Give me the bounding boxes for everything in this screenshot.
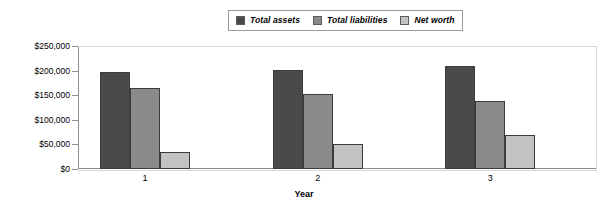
y-axis-tick-label: $50,000: [4, 140, 70, 149]
legend-label: Net worth: [414, 16, 454, 25]
legend-label: Total liabilities: [327, 16, 387, 25]
y-axis-tick-label: $200,000: [4, 67, 70, 76]
x-axis-category-label: 1: [115, 174, 175, 183]
plot-area-frame: [78, 46, 597, 171]
legend-swatch-icon: [236, 16, 245, 25]
legend-entry[interactable]: Total assets: [236, 16, 300, 25]
legend-swatch-icon: [400, 16, 409, 25]
y-axis-tick-label: $0: [4, 165, 70, 174]
legend-entry[interactable]: Net worth: [400, 16, 454, 25]
x-axis-category-label: 2: [288, 174, 348, 183]
legend-swatch-icon: [313, 16, 322, 25]
x-axis-title: Year: [0, 190, 608, 199]
y-axis-tick-label: $150,000: [4, 91, 70, 100]
chart-legend: Total assetsTotal liabilitiesNet worth: [228, 10, 463, 31]
y-axis-tick-label: $250,000: [4, 42, 70, 51]
legend-entry[interactable]: Total liabilities: [313, 16, 387, 25]
y-axis-tick-label: $100,000: [4, 116, 70, 125]
x-axis-category-label: 3: [460, 174, 520, 183]
bar-chart: Total assetsTotal liabilitiesNet worth $…: [0, 0, 608, 215]
legend-label: Total assets: [250, 16, 300, 25]
